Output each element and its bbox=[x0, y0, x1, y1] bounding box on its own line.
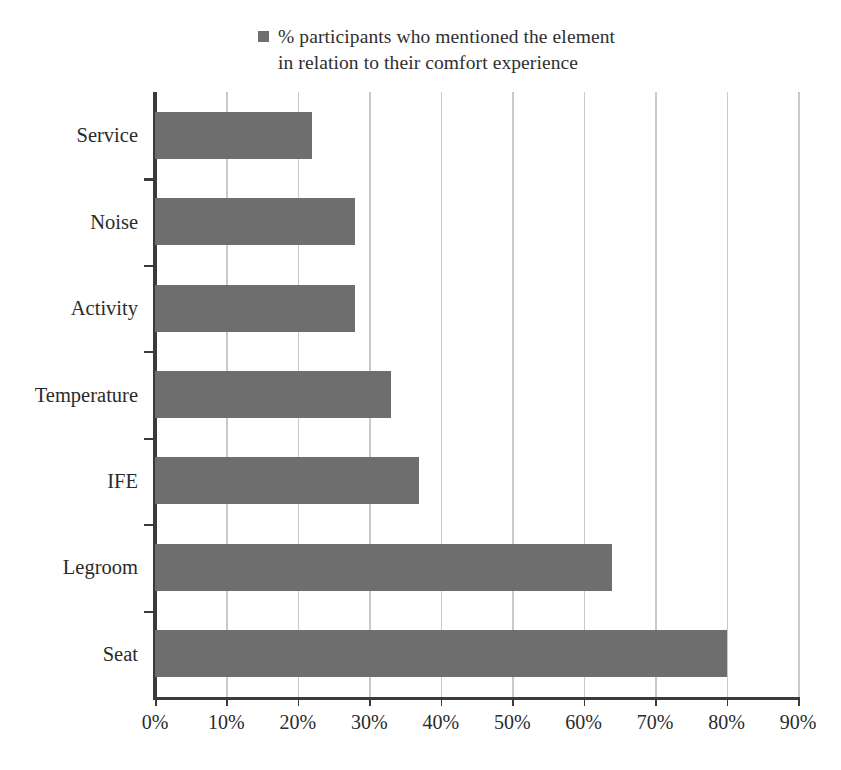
bar bbox=[155, 112, 312, 159]
gridline bbox=[584, 92, 586, 697]
gridline bbox=[798, 92, 800, 697]
y-tick-label: Seat bbox=[103, 642, 138, 665]
bar bbox=[155, 544, 612, 591]
x-tick-label: 40% bbox=[401, 711, 481, 734]
x-tick bbox=[441, 697, 443, 706]
x-tick-label: 90% bbox=[758, 711, 838, 734]
legend-label: % participants who mentioned the element… bbox=[278, 24, 615, 76]
bar bbox=[155, 285, 355, 332]
x-tick-label: 80% bbox=[687, 711, 767, 734]
bar-chart: % participants who mentioned the element… bbox=[0, 0, 841, 770]
chart-legend: % participants who mentioned the element… bbox=[258, 24, 718, 76]
y-tick-label: Service bbox=[77, 124, 138, 147]
x-tick bbox=[798, 697, 800, 706]
y-tick-label: Activity bbox=[71, 297, 138, 320]
y-tick bbox=[144, 178, 155, 180]
x-tick-label: 10% bbox=[186, 711, 266, 734]
bar bbox=[155, 630, 727, 677]
x-tick bbox=[584, 697, 586, 706]
x-tick-label: 20% bbox=[258, 711, 338, 734]
x-tick-label: 50% bbox=[472, 711, 552, 734]
legend-swatch-icon bbox=[258, 31, 269, 42]
x-tick-label: 30% bbox=[329, 711, 409, 734]
y-tick bbox=[144, 351, 155, 353]
y-tick bbox=[144, 438, 155, 440]
x-tick-label: 0% bbox=[115, 711, 195, 734]
x-axis-line bbox=[153, 697, 800, 700]
x-tick bbox=[727, 697, 729, 706]
gridline bbox=[727, 92, 729, 697]
bar bbox=[155, 371, 391, 418]
x-tick bbox=[655, 697, 657, 706]
x-tick bbox=[226, 697, 228, 706]
gridline bbox=[512, 92, 514, 697]
y-tick bbox=[144, 524, 155, 526]
gridline bbox=[441, 92, 443, 697]
x-tick-label: 70% bbox=[615, 711, 695, 734]
x-tick-label: 60% bbox=[544, 711, 624, 734]
y-tick-label: Legroom bbox=[63, 556, 138, 579]
plot-area: 0%10%20%30%40%50%60%70%80%90% ServiceNoi… bbox=[155, 92, 798, 697]
y-tick bbox=[144, 265, 155, 267]
y-tick-label: Temperature bbox=[35, 383, 138, 406]
bar bbox=[155, 457, 419, 504]
gridline bbox=[655, 92, 657, 697]
y-tick-label: IFE bbox=[107, 469, 138, 492]
x-tick bbox=[155, 697, 157, 706]
y-tick-label: Noise bbox=[90, 210, 138, 233]
x-tick bbox=[369, 697, 371, 706]
bar bbox=[155, 198, 355, 245]
x-tick bbox=[298, 697, 300, 706]
x-tick bbox=[512, 697, 514, 706]
y-tick bbox=[144, 611, 155, 613]
